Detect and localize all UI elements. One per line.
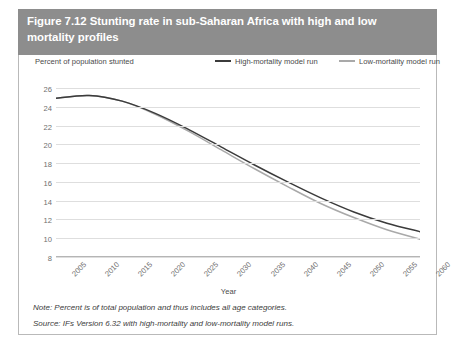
plot-header: Percent of population stunted High-morta…: [19, 55, 438, 73]
y-axis-tick-label: 12: [44, 216, 52, 225]
y-axis-tick-label: 26: [44, 85, 52, 94]
y-axis-tick-label: 14: [44, 197, 52, 206]
figure-title: Figure 7.12 Stunting rate in sub-Saharan…: [27, 14, 397, 45]
y-axis-tick-label: 18: [44, 160, 52, 169]
x-axis-tick-label: 2040: [302, 260, 320, 278]
legend-item-low-mortality: Low-mortality model run: [339, 57, 440, 66]
gridline: 18: [56, 163, 420, 164]
source-text: Source: IFs Version 6.32 with high-morta…: [33, 319, 427, 328]
x-axis-title: Year: [19, 287, 438, 296]
gridline: 26: [56, 88, 420, 89]
x-axis-tick-label: 2060: [434, 260, 452, 278]
x-axis-tick-label: 2005: [70, 260, 88, 278]
gridline: 10: [56, 238, 420, 239]
figure-panel: Percent of population stunted High-morta…: [18, 55, 437, 335]
legend-swatch-high-mortality: [215, 60, 231, 62]
y-axis-title: Percent of population stunted: [35, 57, 134, 66]
legend-label-low-mortality: Low-mortality model run: [359, 57, 440, 66]
gridline: 12: [56, 219, 420, 220]
x-axis-tick-label: 2030: [235, 260, 253, 278]
y-axis-tick-label: 24: [44, 103, 52, 112]
legend-label-high-mortality: High-mortality model run: [235, 57, 318, 66]
series-line: [56, 95, 420, 239]
series-lines: [56, 88, 420, 257]
y-axis-tick-label: 10: [44, 235, 52, 244]
legend-swatch-low-mortality: [339, 60, 355, 62]
legend-item-high-mortality: High-mortality model run: [215, 57, 318, 66]
y-axis-tick-label: 22: [44, 122, 52, 131]
figure-notes: Note: Percent is of total population and…: [33, 303, 427, 335]
x-axis-tick-label: 2035: [268, 260, 286, 278]
x-axis-tick-label: 2050: [368, 260, 386, 278]
y-axis-tick-label: 8: [48, 254, 52, 263]
plot-area: 8101214161820222426: [56, 88, 420, 257]
x-axis-tick-label: 2010: [103, 260, 121, 278]
y-axis-tick-label: 20: [44, 141, 52, 150]
gridline: 8: [56, 257, 420, 258]
figure-header-bar: Figure 7.12 Stunting rate in sub-Saharan…: [18, 9, 437, 55]
y-axis-tick-label: 16: [44, 178, 52, 187]
note-text: Note: Percent is of total population and…: [33, 303, 427, 312]
x-axis-line: [56, 256, 420, 257]
x-axis-tick-label: 2045: [335, 260, 353, 278]
gridline: 24: [56, 107, 420, 108]
gridline: 16: [56, 182, 420, 183]
figure-container: Figure 7.12 Stunting rate in sub-Saharan…: [18, 9, 437, 335]
x-axis-tick-label: 2055: [401, 260, 419, 278]
x-axis-tick-label: 2025: [202, 260, 220, 278]
gridline: 20: [56, 144, 420, 145]
x-axis-tick-label: 2015: [136, 260, 154, 278]
gridline: 22: [56, 126, 420, 127]
x-axis-tick-label: 2020: [169, 260, 187, 278]
gridline: 14: [56, 201, 420, 202]
